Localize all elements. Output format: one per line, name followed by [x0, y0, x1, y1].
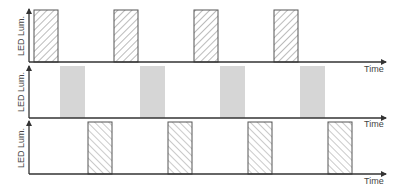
pulse	[140, 66, 165, 118]
pulse	[274, 10, 298, 62]
y-axis-label: LED Lum.	[16, 16, 26, 56]
pulses	[60, 66, 325, 118]
pulses	[88, 122, 352, 174]
pulses	[34, 10, 298, 62]
panel-2: LED Lum. Time	[16, 66, 386, 129]
pulse	[114, 10, 138, 62]
pulse	[168, 122, 192, 174]
pulse	[248, 122, 272, 174]
pulse	[220, 66, 245, 118]
y-axis-label: LED Lum.	[16, 72, 26, 112]
pulse	[194, 10, 218, 62]
pulse	[300, 66, 325, 118]
pulse	[328, 122, 352, 174]
y-axis-label: LED Lum.	[16, 128, 26, 168]
x-axis-label: Time	[364, 119, 384, 129]
x-axis-label: Time	[364, 64, 384, 74]
panel-3: LED Lum. Time	[16, 121, 386, 186]
timing-diagram: LED Lum. Time LED Lum. Time LED Lum. Tim…	[0, 0, 402, 189]
x-axis-label: Time	[364, 176, 384, 186]
panel-1: LED Lum. Time	[16, 9, 386, 74]
pulse	[88, 122, 112, 174]
pulse	[60, 66, 85, 118]
pulse	[34, 10, 58, 62]
